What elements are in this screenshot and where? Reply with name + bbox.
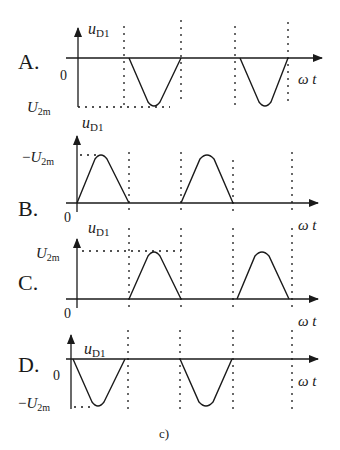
x-axis-label-c: ω t <box>298 313 317 329</box>
waveform-b-1 <box>77 155 129 203</box>
waveform-c-2 <box>237 252 289 299</box>
figure-caption: c) <box>159 426 169 441</box>
level-label-a: U2m <box>27 99 51 117</box>
waveform-a-2 <box>240 58 288 106</box>
waveform-b-2 <box>181 155 233 203</box>
waveform-d-2 <box>180 359 232 406</box>
waveform-options-diagram: A. 0 uD1 U2m ω t B. 0 uD1 −U2m ω t <box>0 0 340 450</box>
y-axis-label-a: uD1 <box>88 20 109 39</box>
zero-label-c: 0 <box>64 306 71 321</box>
option-letter-d: D. <box>18 352 39 377</box>
panel-a: A. 0 uD1 U2m ω t <box>18 20 322 117</box>
panel-d: D. 0 uD1 −U2m ω t <box>18 330 318 414</box>
dashed-guides-b <box>80 152 292 215</box>
zero-label-d: 0 <box>53 368 60 383</box>
level-label-d: −U2m <box>18 395 50 413</box>
waveform-c-1 <box>129 252 181 299</box>
waveform-a-1 <box>129 58 181 106</box>
y-axis-label-b: uD1 <box>82 114 103 133</box>
waveform-d-1 <box>73 359 125 406</box>
panel-b: B. 0 uD1 −U2m ω t <box>18 114 318 233</box>
level-label-b: −U2m <box>22 149 54 167</box>
level-label-c: U2m <box>36 245 60 263</box>
y-axis-label-c: uD1 <box>88 219 109 238</box>
panel-c: C. 0 uD1 U2m ω t <box>18 219 318 329</box>
y-axis-label-d: uD1 <box>84 340 105 359</box>
x-axis-label-d: ω t <box>298 373 317 389</box>
x-axis-label-a: ω t <box>298 71 317 87</box>
zero-label-b: 0 <box>64 210 71 225</box>
x-axis-label-b: ω t <box>298 217 317 233</box>
option-letter-b: B. <box>18 196 38 221</box>
option-letter-c: C. <box>18 270 38 295</box>
dashed-guides-d <box>74 330 292 414</box>
option-letter-a: A. <box>18 49 39 74</box>
zero-label-a: 0 <box>60 68 67 83</box>
